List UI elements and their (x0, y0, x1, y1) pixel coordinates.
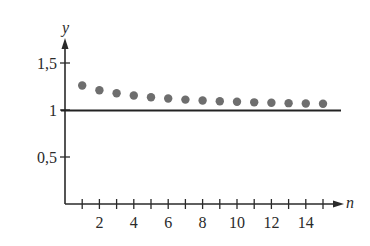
data-point (233, 98, 241, 106)
x-tick-label: 2 (95, 214, 103, 231)
data-point (112, 89, 120, 97)
x-tick-label: 4 (130, 214, 138, 231)
data-point (78, 81, 86, 89)
data-point (147, 93, 155, 101)
x-axis-label: n (346, 194, 354, 211)
data-point (267, 99, 275, 107)
x-tick-label: 14 (298, 214, 314, 231)
x-tick-label: 10 (229, 214, 245, 231)
data-point (319, 100, 327, 108)
data-point (130, 91, 138, 99)
y-axis-arrow-icon (62, 38, 69, 49)
data-point (284, 99, 292, 107)
data-points (78, 81, 327, 108)
x-tick-label: 8 (199, 214, 207, 231)
data-point (95, 86, 103, 94)
axes (62, 38, 345, 208)
data-point (164, 94, 172, 102)
data-point (302, 99, 310, 107)
data-point (216, 97, 224, 105)
x-axis-arrow-icon (333, 201, 344, 208)
data-point (250, 98, 258, 106)
data-point (198, 96, 206, 104)
x-tick-label: 6 (164, 214, 172, 231)
x-tick-label: 12 (263, 214, 279, 231)
y-tick-label: 1 (49, 102, 57, 119)
ticks (60, 63, 323, 209)
y-axis-label: y (60, 19, 70, 37)
sequence-chart: 24681012140,511,5 y n (0, 0, 370, 246)
y-tick-label: 0,5 (37, 149, 57, 166)
data-point (181, 95, 189, 103)
y-tick-label: 1,5 (37, 55, 57, 72)
